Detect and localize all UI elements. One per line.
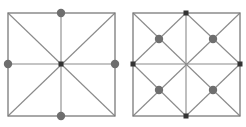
junction-marker <box>59 62 64 67</box>
junction-marker <box>238 62 243 67</box>
node-dot <box>155 35 163 43</box>
node-dot <box>111 60 119 68</box>
right-square-panel <box>131 11 243 119</box>
node-dot <box>57 9 65 17</box>
left-square-panel <box>4 9 119 120</box>
node-dot <box>209 86 217 94</box>
node-dot <box>4 60 12 68</box>
diagram-canvas <box>0 0 246 127</box>
node-dot <box>57 112 65 120</box>
junction-marker <box>184 114 189 119</box>
junction-marker <box>184 11 189 16</box>
node-dot <box>155 86 163 94</box>
junction-marker <box>131 62 136 67</box>
node-dot <box>209 35 217 43</box>
